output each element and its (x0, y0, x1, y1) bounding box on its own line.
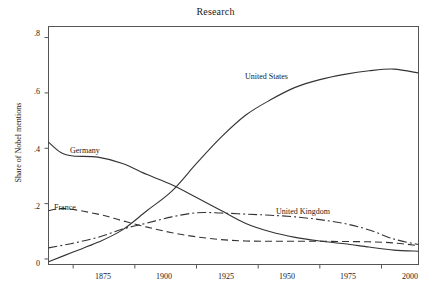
x-tick-label-2: 1925 (206, 272, 246, 281)
x-tick-label-3: 1950 (267, 272, 307, 281)
series-label-united-kingdom: United Kingdom (276, 207, 330, 216)
y-tick-label-1: .2 (18, 202, 40, 211)
plot-frame (49, 27, 419, 265)
y-tick-label-0: 0 (18, 259, 40, 268)
plot-canvas (0, 0, 431, 293)
chart-title: Research (0, 6, 431, 17)
y-tick-label-2: .4 (18, 145, 40, 154)
x-tick-label-0: 1875 (83, 272, 123, 281)
series-line-united-states (49, 69, 419, 262)
x-tick-label-4: 1975 (328, 272, 368, 281)
chart-figure: Research Share of Nobel mentions .8 .6 .… (0, 0, 431, 293)
series-label-france: France (54, 203, 76, 212)
series-label-united-states: United States (245, 72, 288, 81)
data-series-group (49, 69, 419, 262)
x-axis-ticks (73, 265, 381, 269)
x-tick-label-1: 1900 (144, 272, 184, 281)
y-tick-label-4: .8 (18, 29, 40, 38)
y-tick-label-3: .6 (18, 87, 40, 96)
y-axis-ticks (45, 38, 49, 259)
x-tick-label-5: 2000 (390, 272, 430, 281)
series-label-germany: Germany (70, 146, 100, 155)
